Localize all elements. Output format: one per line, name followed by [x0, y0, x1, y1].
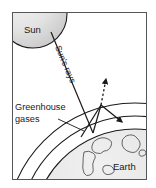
greenhouse-effect-diagram: Sun Sun's rays Greenhouse gases Earth [0, 0, 156, 188]
earth-label: Earth [113, 161, 136, 172]
sun-label: Sun [24, 24, 41, 35]
greenhouse-gases-label-line2: gases [15, 114, 40, 124]
greenhouse-gases-label-line1: Greenhouse [15, 102, 66, 112]
diagram-canvas: Sun Sun's rays Greenhouse gases Earth [0, 0, 156, 188]
